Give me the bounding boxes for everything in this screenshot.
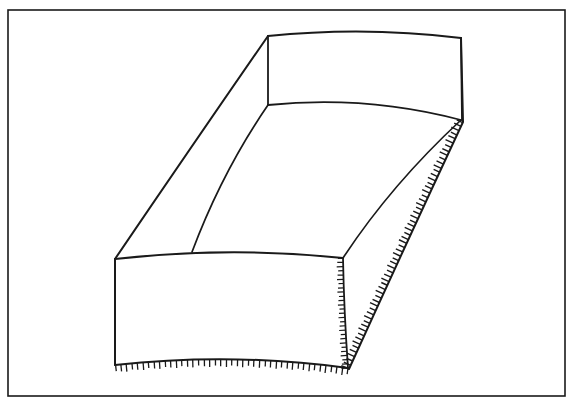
caption-remnant: [7, 396, 97, 404]
canvas-background: [0, 0, 577, 405]
figure-root: [0, 0, 577, 405]
technical-drawing-canvas: [0, 0, 577, 405]
